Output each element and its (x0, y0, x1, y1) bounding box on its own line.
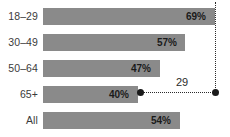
category-label-0: 18–29 (0, 8, 38, 25)
table-row: 65+ 40% (0, 86, 230, 103)
bar-value-0: 69% (186, 8, 206, 25)
category-label-3: 65+ (0, 86, 38, 103)
gap-end-dot (212, 89, 219, 96)
table-row: 18–29 69% (0, 8, 230, 25)
category-label-2: 50–64 (0, 60, 38, 77)
bar-chart: 18–29 69% 30–49 57% 50–64 47% 65+ 40% Al… (0, 0, 230, 137)
bar-value-4: 54% (151, 112, 171, 129)
bar-value-1: 57% (157, 34, 177, 51)
gap-start-dot (137, 89, 144, 96)
gap-annotation-label: 29 (176, 76, 188, 88)
table-row: 50–64 47% (0, 60, 230, 77)
bar-value-3: 40% (109, 86, 129, 103)
table-row: All 54% (0, 112, 230, 129)
gap-connector-line (140, 92, 215, 93)
category-label-1: 30–49 (0, 34, 38, 51)
bar-value-2: 47% (131, 60, 151, 77)
category-label-4: All (0, 112, 38, 129)
table-row: 30–49 57% (0, 34, 230, 51)
